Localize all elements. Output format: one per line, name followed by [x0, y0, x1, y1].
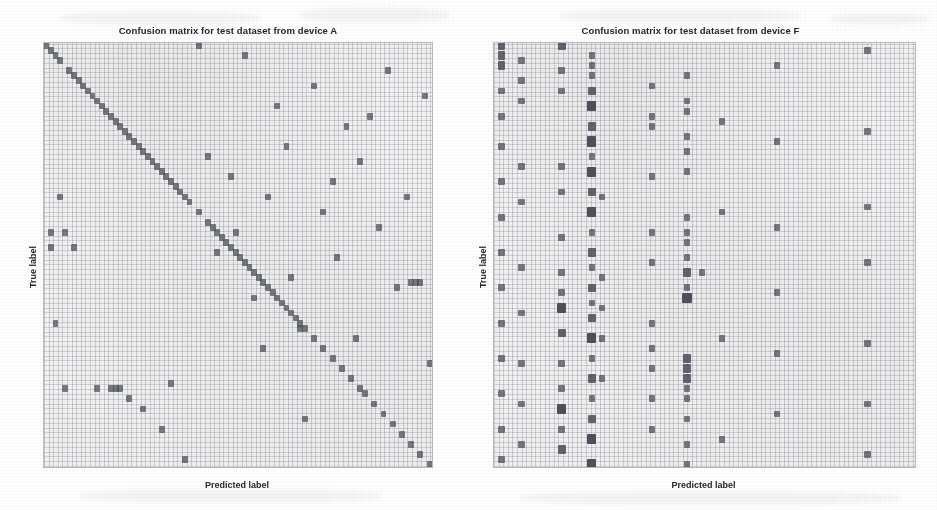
matrix-cell	[599, 274, 605, 281]
matrix-cell	[498, 143, 504, 150]
matrix-cell	[518, 264, 524, 271]
matrix-cell	[589, 300, 595, 307]
matrix-cell	[682, 293, 691, 303]
matrix-cell	[558, 163, 564, 170]
matrix-cell	[274, 103, 280, 110]
matrix-cell	[422, 93, 428, 100]
matrix-cell	[187, 199, 193, 206]
matrix-cell	[558, 269, 564, 276]
matrix-cell	[599, 305, 605, 312]
matrix-cell	[684, 416, 690, 423]
matrix-cell	[320, 345, 326, 352]
matrix-cell	[196, 209, 202, 216]
matrix-cell	[719, 436, 725, 443]
matrix-cell	[117, 385, 123, 392]
matrix-cell	[558, 426, 564, 433]
panel-a-y-axis-label: True label	[28, 246, 38, 288]
matrix-cell	[159, 426, 165, 433]
matrix-cell	[260, 345, 266, 352]
matrix-cell	[589, 264, 595, 271]
matrix-cell	[864, 451, 870, 458]
matrix-cell	[297, 325, 303, 332]
matrix-cell	[168, 380, 174, 387]
matrix-cell	[558, 445, 566, 453]
matrix-cell	[518, 98, 524, 105]
matrix-cell	[684, 72, 690, 79]
matrix-cell	[557, 303, 566, 313]
matrix-cell	[599, 375, 605, 382]
panel-device-a: Confusion matrix for test dataset from d…	[0, 0, 468, 510]
matrix-cell	[518, 57, 524, 64]
matrix-cell	[251, 295, 257, 302]
matrix-cell	[498, 390, 504, 397]
matrix-cell	[589, 355, 595, 362]
matrix-cell	[649, 83, 655, 90]
matrix-cell	[558, 385, 564, 392]
matrix-cell	[518, 401, 524, 408]
matrix-cell	[311, 83, 317, 90]
matrix-cell	[587, 207, 596, 217]
matrix-cell	[719, 118, 725, 125]
matrix-cell	[774, 62, 780, 69]
matrix-cell	[357, 158, 363, 165]
matrix-cell	[62, 385, 68, 392]
panel-device-f: Confusion matrix for test dataset from d…	[468, 0, 937, 510]
matrix-cell	[385, 67, 391, 74]
matrix-cell	[588, 248, 596, 256]
panel-f-x-axis-label: Predicted label	[493, 480, 914, 490]
matrix-cell	[684, 168, 690, 175]
matrix-cell	[588, 87, 596, 95]
matrix-cell	[684, 229, 690, 236]
matrix-a-plot-area	[43, 42, 433, 468]
matrix-cell	[71, 244, 77, 251]
matrix-cell	[498, 426, 504, 433]
matrix-cell	[320, 209, 326, 216]
matrix-cell	[427, 360, 433, 367]
matrix-cell	[774, 138, 780, 145]
matrix-cell	[367, 113, 373, 120]
matrix-cell	[62, 229, 68, 236]
matrix-cell	[196, 42, 202, 49]
matrix-cell	[518, 360, 524, 367]
matrix-cell	[587, 434, 596, 444]
matrix-cell	[242, 52, 248, 59]
panel-f-y-axis-label: True label	[478, 246, 488, 288]
matrix-cell	[214, 249, 220, 256]
matrix-cell	[684, 148, 690, 155]
panel-a-title: Confusion matrix for test dataset from d…	[0, 25, 468, 36]
matrix-cell	[587, 167, 596, 177]
matrix-cell	[394, 284, 400, 291]
matrix-cell	[330, 178, 336, 185]
matrix-cell	[302, 416, 308, 423]
matrix-cell	[498, 249, 504, 256]
matrix-cell	[599, 335, 605, 342]
matrix-cell	[588, 314, 596, 322]
matrix-cell	[498, 178, 504, 185]
matrix-cell	[518, 199, 524, 206]
matrix-cell	[864, 204, 870, 211]
matrix-cell	[498, 214, 504, 221]
matrix-cell	[498, 355, 504, 362]
matrix-cell	[719, 209, 725, 216]
matrix-cell	[498, 113, 504, 120]
matrix-cell	[558, 42, 566, 50]
matrix-cell	[587, 333, 596, 343]
matrix-cell	[558, 189, 564, 196]
matrix-cell	[684, 284, 690, 291]
matrix-cell	[683, 364, 691, 372]
matrix-cell	[589, 52, 595, 59]
matrix-cell	[684, 214, 690, 221]
matrix-cell	[557, 404, 566, 414]
matrix-cell	[683, 374, 691, 382]
matrix-cell	[344, 123, 350, 130]
matrix-cell	[684, 441, 690, 448]
matrix-cell	[353, 335, 359, 342]
matrix-cell	[588, 415, 596, 423]
matrix-cell	[330, 355, 336, 362]
matrix-cell	[587, 459, 596, 468]
matrix-cell	[94, 385, 100, 392]
matrix-cell	[376, 224, 382, 231]
matrix-cell	[588, 284, 596, 292]
matrix-cell	[205, 153, 211, 160]
matrix-cell	[417, 279, 423, 286]
